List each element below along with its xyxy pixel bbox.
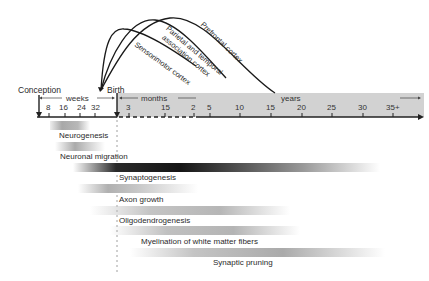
bar-synaptogenesis: [73, 163, 380, 172]
label-myelination: Myelination of white matter fibers: [141, 237, 258, 246]
label-synaptic-pruning: Synaptic pruning: [213, 258, 273, 267]
bar-myelination: [110, 226, 300, 235]
tick-year-2: 2: [191, 103, 195, 112]
years-unit-label: years: [281, 94, 301, 103]
tick-week-16: 16: [59, 103, 68, 112]
tick-week-8: 8: [46, 103, 50, 112]
label-synaptogenesis: Synaptogenesis: [119, 173, 176, 182]
bar-neuronal-migration: [55, 142, 105, 151]
bar-axon-growth: [78, 184, 198, 193]
tick-year-10: 10: [235, 103, 244, 112]
tick-year-35plus: 35+: [386, 103, 400, 112]
tick-year-5: 5: [207, 103, 211, 112]
tick-year-20: 20: [297, 103, 306, 112]
label-neurogenesis: Neurogenesis: [59, 131, 108, 140]
tick-month-15: 15: [161, 103, 170, 112]
bar-neurogenesis: [50, 121, 90, 130]
label-oligodendrogenesis: Oligodendrogenesis: [119, 216, 190, 225]
bar-oligodendrogenesis: [90, 206, 290, 215]
tick-week-32: 32: [91, 103, 100, 112]
conception-label: Conception: [18, 85, 61, 95]
weeks-unit-label: weeks: [66, 94, 89, 103]
months-unit-label: months: [141, 94, 167, 103]
label-axon-growth: Axon growth: [119, 195, 163, 204]
bar-synaptic-pruning: [130, 248, 385, 257]
label-neuronal-migration: Neuronal migration: [60, 152, 128, 161]
tick-year-25: 25: [327, 103, 336, 112]
birth-label: Birth: [107, 85, 124, 95]
tick-week-24: 24: [77, 103, 86, 112]
tick-month-3: 3: [126, 103, 130, 112]
tick-year-30: 30: [358, 103, 367, 112]
tick-year-15: 15: [266, 103, 275, 112]
